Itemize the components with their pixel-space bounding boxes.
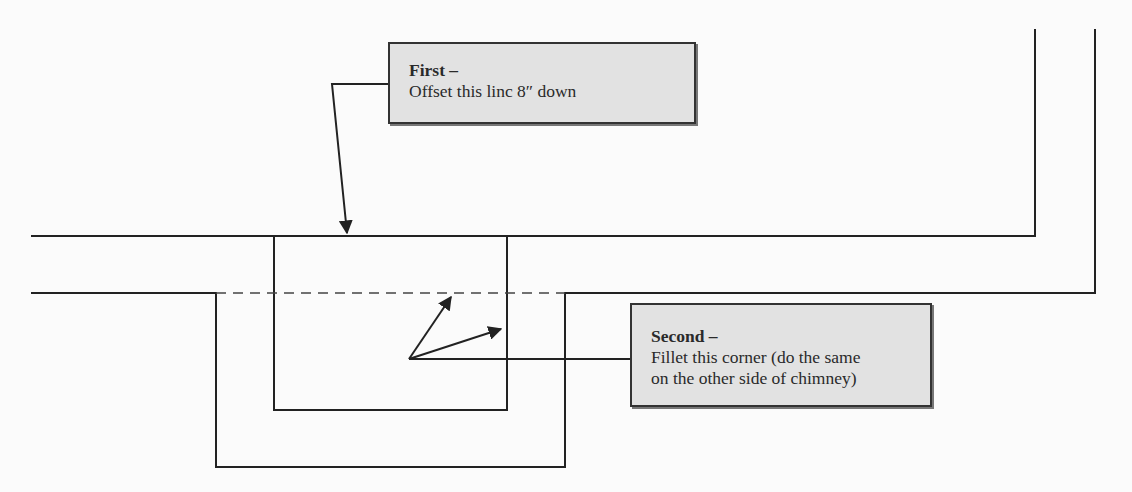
first-leader-line [332, 84, 388, 233]
callout-second-title: Second – [651, 326, 930, 347]
callout-first: First – Offset this linc 8″ down [388, 42, 696, 124]
diagram-canvas: First – Offset this linc 8″ down Second … [0, 0, 1132, 492]
fillet-arrow-2 [409, 329, 501, 359]
callout-first-text: Offset this linc 8″ down [409, 81, 694, 102]
fillet-arrow-1 [409, 297, 451, 359]
callout-second-text-1: Fillet this corner (do the same [651, 347, 930, 368]
callout-second-text-2: on the other side of chimney) [651, 368, 930, 389]
callout-first-title: First – [409, 60, 694, 81]
callout-second: Second – Fillet this corner (do the same… [630, 303, 932, 407]
chimney-inner-outline [274, 236, 507, 410]
